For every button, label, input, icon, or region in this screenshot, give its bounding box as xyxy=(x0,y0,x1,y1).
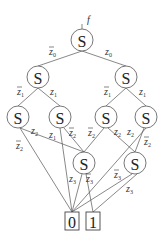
node-level1-right: S xyxy=(115,66,137,88)
svg-text:z2: z2 xyxy=(143,136,151,148)
node-level1-left: S xyxy=(27,66,49,88)
root-function-label: f xyxy=(87,14,91,25)
svg-text:z2: z2 xyxy=(113,126,121,138)
svg-text:S: S xyxy=(56,110,65,127)
edge-n0-n1b xyxy=(82,51,126,66)
svg-text:z0: z0 xyxy=(104,46,112,58)
bdd-diagram: f S S S S S S S S S 0 1 xyxy=(0,0,163,242)
edge-n2b-t0 xyxy=(60,128,72,212)
svg-text:S: S xyxy=(131,156,140,173)
node-root: S xyxy=(71,29,93,51)
edge-n2a-t0 xyxy=(20,128,72,212)
terminal-0: 0 xyxy=(65,212,79,231)
svg-text:z1: z1 xyxy=(138,86,146,98)
svg-text:S: S xyxy=(14,110,23,127)
node-level2-a: S xyxy=(7,106,29,128)
svg-text:S: S xyxy=(34,70,43,87)
svg-text:S: S xyxy=(142,110,151,127)
svg-text:z2: z2 xyxy=(15,140,23,152)
node-level2-c: S xyxy=(95,106,117,128)
node-level3-a: S xyxy=(73,152,95,174)
svg-text:z3: z3 xyxy=(113,169,121,181)
svg-text:z2: z2 xyxy=(87,127,95,139)
svg-text:z2: z2 xyxy=(68,127,76,139)
svg-text:S: S xyxy=(78,33,87,50)
svg-text:z3: z3 xyxy=(68,173,76,185)
node-level2-d: S xyxy=(135,106,157,128)
node-level3-b: S xyxy=(124,152,146,174)
node-level2-b: S xyxy=(49,106,71,128)
svg-text:z2: z2 xyxy=(30,125,38,137)
svg-text:0: 0 xyxy=(68,214,76,231)
svg-text:z1: z1 xyxy=(103,86,111,98)
svg-text:S: S xyxy=(122,70,131,87)
svg-text:z1: z1 xyxy=(16,86,24,98)
svg-text:z1: z1 xyxy=(49,86,57,98)
svg-text:S: S xyxy=(102,110,111,127)
svg-text:z3: z3 xyxy=(85,173,93,185)
edge-n0-n1a xyxy=(38,51,82,66)
terminal-1: 1 xyxy=(86,212,100,231)
svg-text:z1: z1 xyxy=(48,129,56,141)
edge-n3b-t0 xyxy=(72,174,132,212)
svg-text:1: 1 xyxy=(89,214,97,231)
edge-n2c-n3a xyxy=(84,128,104,152)
svg-text:S: S xyxy=(80,156,89,173)
svg-text:z0: z0 xyxy=(48,46,56,58)
svg-text:z2: z2 xyxy=(126,126,134,138)
svg-text:z3: z3 xyxy=(125,183,133,195)
